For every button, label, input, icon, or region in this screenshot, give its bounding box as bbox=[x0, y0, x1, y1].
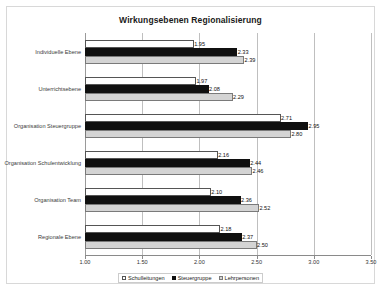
gridline bbox=[371, 33, 372, 255]
bar-value-label: 2.39 bbox=[245, 57, 256, 63]
bar-row: 2.39 bbox=[85, 56, 371, 64]
legend-swatch-icon bbox=[172, 276, 176, 280]
category-label: Unterrichtsebene bbox=[38, 86, 81, 92]
bar-row: 2.52 bbox=[85, 204, 371, 212]
bar-value-label: 2.50 bbox=[257, 242, 268, 248]
legend-label: Schulleitungen bbox=[128, 275, 165, 281]
bar-row: 1.97 bbox=[85, 77, 371, 85]
bar-group: Individuelle Ebene1.952.332.39 bbox=[85, 33, 371, 70]
chart-frame: Wirkungsebenen Regionalisierung Individu… bbox=[6, 6, 375, 284]
bar-value-label: 2.52 bbox=[259, 205, 270, 211]
bar-row: 2.71 bbox=[85, 114, 371, 122]
bar-value-label: 2.80 bbox=[291, 131, 302, 137]
bar-group: Regionale Ebene2.182.372.50 bbox=[85, 218, 371, 255]
bar: 2.39 bbox=[85, 56, 244, 64]
bar-value-label: 1.97 bbox=[196, 78, 207, 84]
bar-row: 2.10 bbox=[85, 188, 371, 196]
legend-swatch-icon bbox=[219, 276, 223, 280]
bar-value-label: 2.36 bbox=[241, 197, 252, 203]
legend-label: Lehrpersonen bbox=[225, 275, 260, 281]
bar: 2.95 bbox=[85, 122, 308, 130]
category-label: Individuelle Ebene bbox=[35, 49, 81, 55]
chart-title: Wirkungsebenen Regionalisierung bbox=[7, 15, 374, 25]
bar-value-label: 2.37 bbox=[242, 234, 253, 240]
bar-group: Organisation Schulentwicklung2.162.442.4… bbox=[85, 144, 371, 181]
x-tick-label: 3.50 bbox=[366, 259, 377, 265]
bar-row: 2.44 bbox=[85, 159, 371, 167]
bar-value-label: 2.16 bbox=[218, 152, 229, 158]
legend-item[interactable]: Lehrpersonen bbox=[219, 275, 260, 281]
bar-row: 2.46 bbox=[85, 167, 371, 175]
bar: 2.29 bbox=[85, 93, 233, 101]
bar-value-label: 2.08 bbox=[209, 86, 220, 92]
bar-groups: Individuelle Ebene1.952.332.39Unterricht… bbox=[85, 33, 371, 255]
bar: 2.52 bbox=[85, 204, 259, 212]
bar: 2.80 bbox=[85, 130, 291, 138]
legend-swatch-icon bbox=[122, 276, 126, 280]
category-label: Organisation Schulentwicklung bbox=[5, 160, 82, 166]
bar: 2.08 bbox=[85, 85, 209, 93]
bar-value-label: 2.29 bbox=[233, 94, 244, 100]
bar-row: 2.95 bbox=[85, 122, 371, 130]
x-tick-label: 2.00 bbox=[194, 259, 205, 265]
bar: 2.33 bbox=[85, 48, 237, 56]
bar-row: 2.36 bbox=[85, 196, 371, 204]
legend-item[interactable]: Steuergruppe bbox=[172, 275, 212, 281]
bar-row: 2.29 bbox=[85, 93, 371, 101]
category-label: Organisation Steuergruppe bbox=[14, 123, 81, 129]
legend-box: SchulleitungenSteuergruppeLehrpersonen bbox=[118, 273, 263, 283]
bar: 2.16 bbox=[85, 151, 218, 159]
bar-value-label: 2.18 bbox=[220, 226, 231, 232]
bar-value-label: 2.33 bbox=[238, 49, 249, 55]
legend-label: Steuergruppe bbox=[178, 275, 212, 281]
bar: 1.95 bbox=[85, 40, 194, 48]
legend: SchulleitungenSteuergruppeLehrpersonen bbox=[7, 273, 374, 283]
category-label: Regionale Ebene bbox=[38, 234, 81, 240]
bar-group: Unterrichtsebene1.972.082.29 bbox=[85, 70, 371, 107]
x-tick-label: 2.50 bbox=[251, 259, 262, 265]
bar-row: 2.33 bbox=[85, 48, 371, 56]
bar-row: 2.18 bbox=[85, 225, 371, 233]
bar-row: 1.95 bbox=[85, 40, 371, 48]
bar-row: 2.37 bbox=[85, 233, 371, 241]
bar: 2.44 bbox=[85, 159, 250, 167]
bar: 2.71 bbox=[85, 114, 281, 122]
x-tick-label: 1.00 bbox=[80, 259, 91, 265]
bar-value-label: 2.46 bbox=[253, 168, 264, 174]
bar-row: 2.50 bbox=[85, 241, 371, 249]
bar-value-label: 1.95 bbox=[194, 41, 205, 47]
bar-group: Organisation Team2.102.362.52 bbox=[85, 181, 371, 218]
legend-item[interactable]: Schulleitungen bbox=[122, 275, 165, 281]
bar-row: 2.16 bbox=[85, 151, 371, 159]
bar: 1.97 bbox=[85, 77, 196, 85]
bar: 2.36 bbox=[85, 196, 241, 204]
bar: 2.46 bbox=[85, 167, 252, 175]
bar: 2.50 bbox=[85, 241, 257, 249]
plot-area: Individuelle Ebene1.952.332.39Unterricht… bbox=[85, 33, 371, 255]
bar-group: Organisation Steuergruppe2.712.952.80 bbox=[85, 107, 371, 144]
bar-row: 2.80 bbox=[85, 130, 371, 138]
x-tick-label: 1.50 bbox=[137, 259, 148, 265]
bar-value-label: 2.10 bbox=[211, 189, 222, 195]
bar-value-label: 2.95 bbox=[309, 123, 320, 129]
category-label: Organisation Team bbox=[34, 197, 81, 203]
x-tick-label: 3.00 bbox=[308, 259, 319, 265]
bar: 2.18 bbox=[85, 225, 220, 233]
x-axis bbox=[85, 255, 371, 256]
bar: 2.37 bbox=[85, 233, 242, 241]
bar-row: 2.08 bbox=[85, 85, 371, 93]
bar-value-label: 2.44 bbox=[250, 160, 261, 166]
bar-value-label: 2.71 bbox=[281, 115, 292, 121]
bar: 2.10 bbox=[85, 188, 211, 196]
